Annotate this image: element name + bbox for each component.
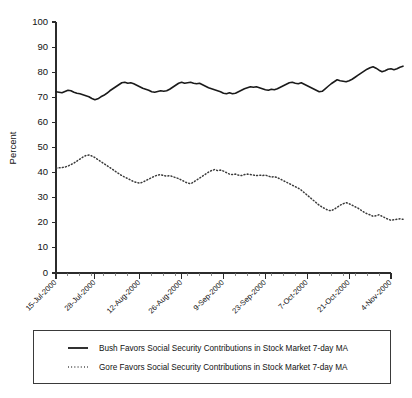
x-tick-label: 7-Oct-2000 <box>276 278 309 311</box>
x-tick-label: 26-Aug-2000 <box>147 278 184 315</box>
y-tick-label: 50 <box>37 141 48 152</box>
y-tick-label: 20 <box>37 216 48 227</box>
y-tick-label: 70 <box>37 91 48 102</box>
x-tick-label: 4-Nov-2000 <box>359 278 393 312</box>
x-tick-label: 21-Oct-2000 <box>315 278 351 314</box>
legend-label-gore: Gore Favors Social Security Contribution… <box>99 363 348 372</box>
line-chart-figure: 0102030405060708090100 Percent 15-Jul-20… <box>0 0 412 398</box>
y-tick-label: 10 <box>37 241 48 252</box>
x-tick-label: 28-Jul-2000 <box>63 278 98 313</box>
legend-label-bush: Bush Favors Social Security Contribution… <box>99 344 348 353</box>
series-line-bush <box>56 66 403 100</box>
y-tick-label: 30 <box>37 191 48 202</box>
y-tick-label: 40 <box>37 166 48 177</box>
y-axis-title: Percent <box>7 131 18 164</box>
y-tick-labels: 0102030405060708090100 <box>32 16 48 278</box>
x-tick-label: 12-Aug-2000 <box>105 278 142 315</box>
y-tick-label: 90 <box>37 41 48 52</box>
legend-border <box>34 331 391 384</box>
y-tick-label: 80 <box>37 66 48 77</box>
x-tick-label: 15-Jul-2000 <box>24 278 59 313</box>
x-tick-labels: 15-Jul-200028-Jul-200012-Aug-200026-Aug-… <box>24 278 394 315</box>
x-axis-group: 15-Jul-200028-Jul-200012-Aug-200026-Aug-… <box>24 273 394 315</box>
y-tick-label: 100 <box>32 16 48 27</box>
plot-area <box>56 66 403 220</box>
y-tick-label: 60 <box>37 116 48 127</box>
series-line-gore <box>56 155 403 220</box>
x-tick-label: 23-Sep-2000 <box>230 278 267 315</box>
x-tick-marks <box>56 273 391 279</box>
chart-container: 0102030405060708090100 Percent 15-Jul-20… <box>0 0 412 398</box>
x-tick-label: 9-Sep-2000 <box>191 278 225 312</box>
y-axis-group: 0102030405060708090100 Percent <box>7 16 56 278</box>
legend: Bush Favors Social Security Contribution… <box>34 331 391 384</box>
y-tick-label: 0 <box>43 267 48 278</box>
